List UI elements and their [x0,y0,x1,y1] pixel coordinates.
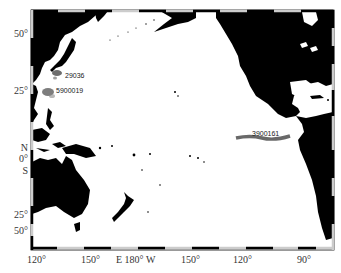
lat-label-0: 0° [2,154,28,164]
float-label-3900161: 3900161 [252,130,279,137]
lon-label-120w: 120° [233,255,252,265]
lon-label-120e: 120° [27,255,46,265]
lat-label-n: N [2,143,28,153]
pacific-map [0,0,341,273]
lat-label-s: S [2,166,28,176]
float-label-29036: 29036 [65,72,84,79]
lon-label-150e: 150° [81,255,100,265]
lat-label-25n: 25° [2,86,28,96]
lat-label-50n: 50° [2,29,28,39]
float-label-5900019: 5900019 [56,87,83,94]
lon-label-180: E 180° W [116,255,155,265]
lon-label-150w: 150° [181,255,200,265]
lat-label-25s: 25° [2,210,28,220]
lon-label-90w: 90° [297,255,311,265]
lat-label-50s: 50° [2,226,28,236]
